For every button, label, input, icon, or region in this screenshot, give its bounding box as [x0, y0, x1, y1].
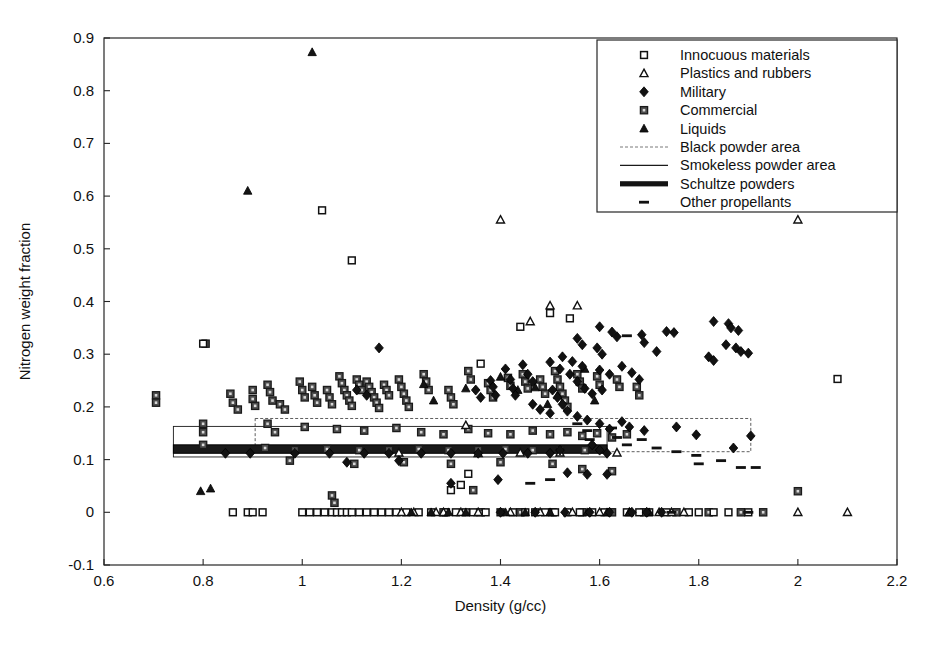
data-point-center — [326, 389, 329, 392]
data-point-center — [298, 380, 301, 383]
y-tick-label: 0.5 — [73, 240, 94, 257]
data-point — [314, 509, 321, 516]
data-point-center — [365, 380, 368, 383]
data-point-center — [266, 422, 269, 425]
x-tick-label: 1.4 — [490, 572, 511, 589]
data-point — [734, 325, 743, 335]
data-point-center — [358, 383, 361, 386]
data-point — [494, 475, 503, 485]
data-point — [306, 509, 313, 516]
data-point-center — [336, 428, 339, 431]
data-point — [501, 364, 510, 374]
data-point-center — [232, 401, 235, 404]
data-point-center — [395, 427, 398, 430]
data-point — [710, 509, 717, 516]
data-point-center — [531, 449, 534, 452]
data-point — [637, 438, 647, 441]
data-point-center — [583, 449, 586, 452]
data-point-center — [638, 394, 641, 397]
legend-label: Black powder area — [680, 139, 801, 155]
data-point — [794, 508, 802, 515]
series-military — [221, 317, 755, 518]
data-point — [709, 317, 718, 327]
y-tick-label: 0.6 — [73, 187, 94, 204]
data-point-center — [383, 383, 386, 386]
data-point — [363, 509, 370, 516]
legend-label: Innocuous materials — [680, 47, 810, 63]
data-point — [457, 481, 464, 488]
data-point-center — [467, 370, 470, 373]
data-point — [640, 426, 649, 436]
data-point — [736, 466, 746, 469]
legend-label: Other propellants — [680, 194, 791, 210]
data-point-center — [274, 431, 277, 434]
data-point — [843, 508, 851, 515]
data-point — [652, 347, 661, 357]
data-point-center — [509, 433, 512, 436]
data-point-center — [266, 383, 269, 386]
data-point-center — [450, 463, 453, 466]
x-axis-title: Density (g/cc) — [455, 597, 547, 614]
data-point-center — [289, 459, 292, 462]
data-point — [229, 509, 236, 516]
data-point-center — [229, 392, 232, 395]
data-point — [628, 368, 637, 378]
data-point — [729, 443, 738, 453]
data-point-center — [279, 403, 282, 406]
data-point-center — [269, 391, 272, 394]
data-point-center — [408, 406, 411, 409]
data-point — [595, 419, 604, 429]
data-point-center — [398, 378, 401, 381]
data-point — [299, 509, 306, 516]
data-point — [319, 207, 326, 214]
data-point-center — [370, 391, 373, 394]
region-layer — [173, 418, 750, 456]
data-point-center — [616, 378, 619, 381]
data-point-center — [378, 407, 381, 410]
data-point — [249, 509, 256, 516]
x-tick-label: 0.8 — [193, 572, 214, 589]
data-point — [622, 443, 632, 446]
data-point — [691, 454, 701, 457]
data-point-center — [155, 401, 158, 404]
data-point-center — [331, 494, 334, 497]
data-point-center — [400, 386, 403, 389]
y-tick-label: 0.4 — [73, 293, 94, 310]
y-tick-label: 0.2 — [73, 398, 94, 415]
data-point — [517, 323, 524, 330]
data-point-center — [333, 502, 336, 505]
data-point — [672, 422, 681, 432]
data-point — [652, 447, 662, 450]
x-tick-label: 1.8 — [688, 572, 709, 589]
data-point-center — [762, 511, 765, 514]
legend-marker-thick-line — [620, 181, 668, 186]
legend-marker-filled-square-center — [643, 109, 646, 112]
x-tick-label: 1 — [298, 572, 306, 589]
data-point-center — [635, 386, 638, 389]
data-point-center — [740, 511, 743, 514]
data-point-center — [611, 470, 614, 473]
data-point — [695, 509, 702, 516]
y-axis-title: Nitrogen weight fraction — [16, 223, 33, 381]
data-point-center — [797, 490, 800, 493]
data-point-center — [311, 386, 314, 389]
data-point — [476, 392, 485, 402]
data-point-center — [403, 392, 406, 395]
data-point — [471, 385, 480, 395]
data-point-center — [202, 422, 205, 425]
data-point-center — [581, 468, 584, 471]
y-tick-label: 0.8 — [73, 82, 94, 99]
data-point — [744, 348, 753, 358]
data-point-center — [251, 398, 254, 401]
data-point-center — [541, 386, 544, 389]
data-point — [462, 384, 470, 392]
data-point-center — [353, 463, 356, 466]
data-point — [259, 509, 266, 516]
data-point-center — [549, 433, 552, 436]
data-point — [636, 509, 643, 516]
data-point-center — [313, 394, 316, 397]
data-point-center — [303, 396, 306, 399]
data-point — [308, 48, 316, 56]
y-tick-label: -0.1 — [68, 556, 94, 573]
legend-label: Commercial — [680, 102, 757, 118]
